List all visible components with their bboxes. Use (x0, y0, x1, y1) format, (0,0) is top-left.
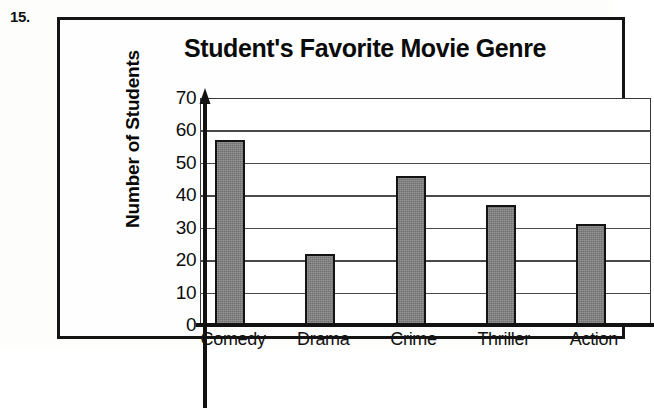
y-tick-label-60: 60 (158, 119, 196, 141)
chart-title: Student's Favorite Movie Genre (140, 34, 590, 63)
bar-thriller (486, 205, 516, 325)
gridline-50 (200, 163, 651, 165)
x-tick-label-comedy: Comedy (188, 329, 278, 350)
x-tick-label-crime: Crime (368, 329, 458, 350)
y-tick-label-20: 20 (158, 249, 196, 271)
bar-action (576, 224, 606, 325)
bar-crime (396, 176, 426, 325)
x-tick-label-action: Action (549, 329, 639, 350)
x-tick-label-thriller: Thriller (459, 329, 549, 350)
y-tick-label-10: 10 (158, 281, 196, 303)
y-tick-label-40: 40 (158, 184, 196, 206)
gridline-60 (200, 130, 651, 132)
bar-comedy (215, 140, 245, 325)
y-tick-label-70: 70 (158, 87, 196, 109)
x-axis-baseline (196, 323, 654, 327)
x-tick-label-drama: Drama (278, 329, 368, 350)
question-number: 15. (10, 8, 30, 25)
gridline-40 (200, 195, 651, 197)
y-tick-label-30: 30 (158, 216, 196, 238)
bar-drama (305, 254, 335, 325)
y-axis-tick-labels: 706050403020100 (156, 98, 196, 325)
figure-border-box: Student's Favorite Movie Genre Number of… (57, 17, 625, 339)
y-axis-title: Number of Students (122, 24, 144, 254)
plot-area (200, 98, 651, 325)
x-axis-tick-labels: ComedyDramaCrimeThrillerAction (200, 329, 651, 355)
y-tick-label-50: 50 (158, 151, 196, 173)
y-axis-arrow-icon (198, 88, 212, 408)
